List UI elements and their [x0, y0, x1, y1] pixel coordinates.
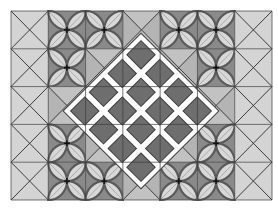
quilt-cell-flower: [48, 124, 85, 162]
quilt-cell-x: [11, 11, 48, 49]
quilt-cell-x: [11, 87, 48, 125]
quilt-cell-x: [235, 162, 272, 200]
quilt-cell-flower: [86, 11, 123, 49]
quilt-cell-flower: [48, 162, 85, 200]
quilt-cell-x: [235, 11, 272, 49]
quilt-cell-x: [11, 49, 48, 87]
quilt-cell-flower: [197, 162, 234, 200]
quilt-cell-flower: [160, 162, 197, 200]
quilt-cell-x: [235, 124, 272, 162]
quilt-cell-flower: [160, 11, 197, 49]
quilt-pattern: [0, 0, 278, 212]
quilt-cell-x: [235, 87, 272, 125]
quilt-cell-flower: [197, 11, 234, 49]
quilt-cell-flower: [86, 162, 123, 200]
quilt-cell-flower: [48, 11, 85, 49]
quilt-cell-x: [11, 162, 48, 200]
quilt-cell-x: [235, 49, 272, 87]
quilt-cell-flower: [197, 124, 234, 162]
quilt-cell-flower: [48, 49, 85, 87]
quilt-cell-flower: [197, 49, 234, 87]
quilt-cell-x: [11, 124, 48, 162]
